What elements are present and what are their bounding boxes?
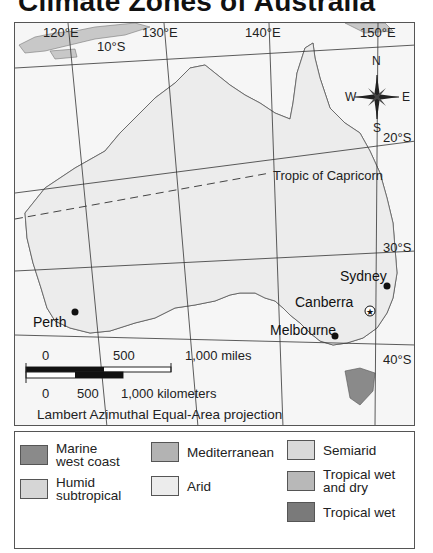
longitude-label: 130°E (142, 26, 178, 39)
city-label-canberra: Canberra (295, 295, 353, 309)
compass-n-label: N (372, 55, 381, 67)
svg-text:★: ★ (366, 307, 374, 317)
swatch-arid (151, 476, 179, 496)
projection-label: Lambert Azimuthal Equal-Area projection (37, 407, 282, 422)
legend-item-marine-west-coast: Marinewest coast (20, 442, 120, 468)
swatch-tropical-wet-and-dry (287, 471, 315, 491)
legend-item-mediterranean: Mediterranean (151, 442, 274, 462)
longitude-label: 120°E (43, 26, 79, 39)
scale-km-500: 500 (77, 386, 99, 401)
scale-km-1000: 1,000 kilometers (121, 386, 216, 401)
latitude-label: 20°S (383, 131, 411, 144)
compass-e-label: E (402, 91, 410, 103)
swatch-humid-subtropical (20, 479, 48, 499)
compass-s-label: S (373, 122, 381, 134)
scale-miles-1000: 1,000 miles (185, 348, 251, 363)
australia-map: ★ (15, 23, 415, 426)
scale-km-0: 0 (42, 386, 49, 401)
scale-miles-0: 0 (42, 348, 49, 363)
city-label-sydney: Sydney (340, 269, 387, 283)
latitude-label: 40°S (383, 353, 411, 366)
latitude-label: 30°S (383, 241, 411, 254)
tropic-of-capricorn-label: Tropic of Capricorn (273, 169, 383, 182)
swatch-marine-west-coast (20, 445, 48, 465)
city-label-perth: Perth (33, 315, 66, 329)
legend-item-tropical-wet: Tropical wet (287, 502, 395, 522)
map-title: Climate Zones of Australia (18, 0, 375, 18)
latitude-label: 10°S (97, 40, 125, 53)
legend-item-humid-subtropical: Humidsubtropical (20, 476, 121, 502)
longitude-label: 150°E (360, 26, 396, 39)
city-label-melbourne: Melbourne (270, 323, 336, 337)
legend: Marinewest coast Humidsubtropical Medite… (14, 431, 415, 549)
compass-w-label: W (345, 91, 356, 103)
legend-item-tropical-wet-and-dry: Tropical wetand dry (287, 468, 395, 494)
swatch-mediterranean (151, 442, 179, 462)
map-area: ★ 120°E 130°E 140°E 150°E 10°S 20°S 30°S… (14, 22, 415, 426)
swatch-semiarid (287, 440, 315, 460)
scale-miles-500: 500 (113, 348, 135, 363)
swatch-tropical-wet (287, 502, 315, 522)
longitude-label: 140°E (245, 26, 281, 39)
legend-item-semiarid: Semiarid (287, 440, 376, 460)
legend-item-arid: Arid (151, 476, 211, 496)
